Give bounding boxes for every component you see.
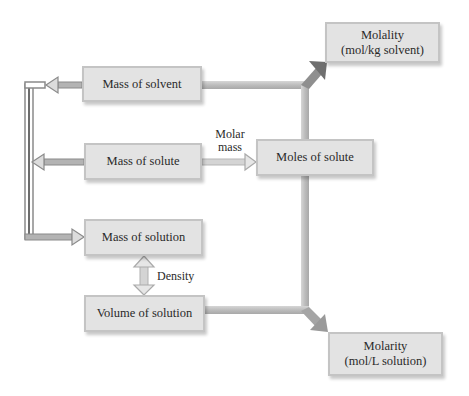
node-mass-of-solution: Mass of solution: [84, 219, 203, 256]
node-molarity: Molarity (mol/L solution): [328, 332, 443, 376]
node-label: Volume of solution: [97, 306, 193, 321]
molar-mass-arrow: [202, 154, 256, 170]
node-label: Mass of solvent: [102, 77, 181, 92]
density-arrow: [134, 256, 154, 295]
node-moles-of-solute: Moles of solute: [256, 139, 374, 176]
node-label: Mass of solution: [102, 230, 185, 245]
node-mass-of-solute: Mass of solute: [84, 143, 202, 180]
node-label: Molarity: [345, 339, 427, 354]
edge-label-molar-mass: Molar mass: [208, 128, 252, 154]
edge-label-density: Density: [157, 270, 194, 283]
node-sublabel: (mol/L solution): [345, 354, 427, 369]
node-mass-of-solvent: Mass of solvent: [82, 66, 202, 102]
node-volume-of-solution: Volume of solution: [84, 295, 205, 332]
edge-label-text: Density: [157, 269, 194, 283]
node-label: Molality: [341, 28, 424, 43]
node-sublabel: (mol/kg solvent): [341, 43, 424, 58]
node-label: Mass of solute: [107, 154, 180, 169]
edge-label-line2: mass: [208, 141, 252, 154]
node-label: Moles of solute: [276, 150, 354, 165]
trunk-arrows: [202, 61, 328, 332]
node-molality: Molality (mol/kg solvent): [325, 22, 440, 63]
left-bracket-arrows: [25, 77, 84, 245]
